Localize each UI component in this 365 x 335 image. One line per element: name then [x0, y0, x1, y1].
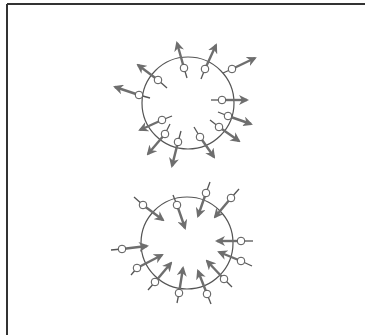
particle-dot-icon — [237, 237, 245, 245]
particle-outward — [194, 127, 214, 157]
panel-inward-field — [111, 182, 253, 304]
figure-frame — [7, 4, 365, 335]
particle-inward — [175, 268, 183, 303]
particle-inward — [207, 261, 232, 287]
diagram-figure — [0, 0, 365, 335]
particle-dot-icon — [220, 275, 228, 283]
particle-inward — [148, 263, 171, 290]
panel-outward-field — [115, 43, 255, 166]
particle-inward — [215, 189, 239, 217]
particle-dot-icon — [202, 189, 210, 197]
particle-dot-icon — [196, 133, 204, 141]
particle-outward — [223, 58, 255, 73]
particle-dot-icon — [180, 64, 188, 72]
particle-inward — [173, 195, 185, 228]
particle-dot-icon — [224, 112, 232, 120]
particle-dot-icon — [228, 65, 236, 73]
particle-dot-icon — [215, 123, 223, 131]
particle-dot-icon — [154, 76, 162, 84]
particle-dot-icon — [201, 65, 209, 73]
particle-dot-icon — [175, 289, 183, 297]
particle-dot-icon — [237, 257, 245, 265]
particle-outward — [177, 43, 188, 78]
particle-outward — [218, 112, 251, 124]
diagram-canvas — [0, 0, 365, 335]
field-panels — [111, 43, 255, 304]
particle-dot-icon — [139, 201, 147, 209]
particle-dot-icon — [161, 130, 169, 138]
particle-dot-icon — [218, 96, 226, 104]
particle-dot-icon — [158, 116, 166, 124]
particle-inward — [219, 252, 252, 266]
particle-dot-icon — [203, 290, 211, 298]
particle-dot-icon — [135, 91, 143, 99]
particle-dot-icon — [227, 194, 235, 202]
particle-inward — [217, 237, 253, 245]
particle-outward — [210, 120, 239, 141]
particle-dot-icon — [133, 264, 141, 272]
particle-dot-icon — [174, 138, 182, 146]
particle-inward — [134, 197, 163, 220]
particle-outward — [138, 65, 167, 88]
particle-outward — [211, 96, 247, 104]
particle-outward — [201, 45, 216, 79]
particle-dot-icon — [151, 278, 159, 286]
particle-dot-icon — [173, 201, 181, 209]
particle-dot-icon — [118, 245, 126, 253]
